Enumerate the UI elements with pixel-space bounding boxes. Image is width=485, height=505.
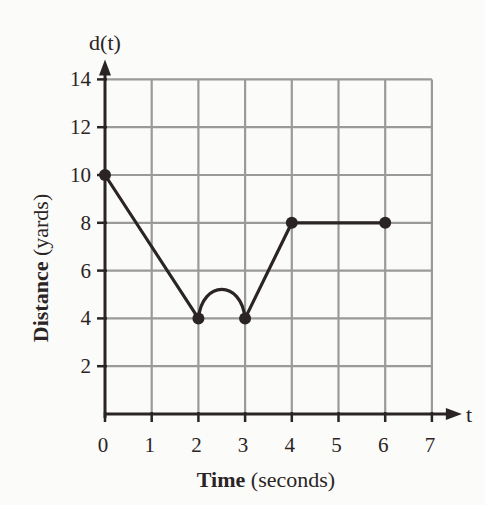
data-point [192, 312, 204, 324]
y-tick-label: 10 [70, 163, 91, 187]
x-tick-label: 5 [331, 433, 342, 457]
y-axis-arrow-icon [99, 59, 111, 75]
distance-time-chart: 012345672468101214d(t)tTime (seconds)Dis… [0, 0, 485, 505]
y-tick-label: 6 [81, 259, 92, 283]
x-axis-arrow-icon [446, 408, 462, 420]
y-tick-label: 12 [70, 115, 91, 139]
x-tick-label: 4 [285, 433, 296, 457]
data-point [286, 217, 298, 229]
y-axis-label: Distance (yards) [28, 194, 53, 342]
y-axis-name: d(t) [89, 30, 121, 55]
graph-arc-segment [198, 289, 245, 318]
data-point [239, 312, 251, 324]
x-tick-label: 7 [425, 433, 436, 457]
x-axis-label: Time (seconds) [197, 467, 335, 492]
x-tick-label: 2 [191, 433, 202, 457]
y-tick-label: 4 [81, 306, 92, 330]
data-point [379, 217, 391, 229]
x-tick-label: 1 [144, 433, 155, 457]
data-point [99, 169, 111, 181]
y-tick-label: 2 [81, 354, 92, 378]
x-tick-label: 6 [378, 433, 389, 457]
y-tick-label: 14 [70, 67, 92, 91]
y-tick-label: 8 [81, 211, 92, 235]
x-tick-label: 3 [238, 433, 249, 457]
x-axis-name: t [466, 402, 472, 427]
x-tick-label: 0 [98, 433, 109, 457]
